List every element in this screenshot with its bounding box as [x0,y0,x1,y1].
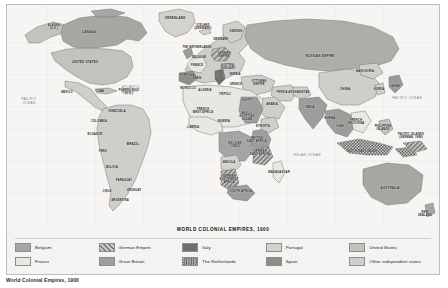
legend-item: The Netherlands [182,255,264,268]
legend-swatch-portugal [266,243,282,252]
world-map: PACIFIC OCEAN ATLANTIC OCEAN INDIAN OCEA… [7,5,439,229]
legend-label: Italy [202,245,211,250]
legend-item: Great Britain [99,255,181,268]
legend-swatch-belgium [15,243,31,252]
legend-label: United States [369,245,397,250]
legend-label: Other independent states [369,259,421,264]
legend-label: German Empire [119,245,151,250]
legend-item: Portugal [266,241,348,254]
legend-label: Great Britain [119,259,145,264]
legend-label: Belgium [35,245,52,250]
legend-label: Spain [286,259,298,264]
legend-item: Other independent states [349,255,431,268]
legend-item: Belgium [15,241,97,254]
legend-label: Portugal [286,245,303,250]
legend-swatch-other-independent-states [349,257,365,266]
legend-item: German Empire [99,241,181,254]
legend-item: United States [349,241,431,254]
legend-item: France [15,255,97,268]
map-title: WORLD COLONIAL EMPIRES, 1900 [7,227,439,232]
figure-caption: World Colonial Empires, 1900 [6,277,436,283]
legend-item: Italy [182,241,264,254]
legend-item: Spain [266,255,348,268]
legend-swatch-united-states [349,243,365,252]
legend-swatch-the-netherlands [182,257,198,266]
legend-label: The Netherlands [202,259,236,264]
legend-swatch-france [15,257,31,266]
map-landmasses-svg [7,5,439,229]
legend-divider [15,238,431,239]
legend-swatch-great-britain [99,257,115,266]
legend-swatch-italy [182,243,198,252]
legend-swatch-spain [266,257,282,266]
map-legend: Belgium German Empire Italy Portugal Uni… [15,241,431,271]
legend-swatch-german-empire [99,243,115,252]
map-figure: PACIFIC OCEAN ATLANTIC OCEAN INDIAN OCEA… [6,4,440,275]
legend-label: France [35,259,49,264]
